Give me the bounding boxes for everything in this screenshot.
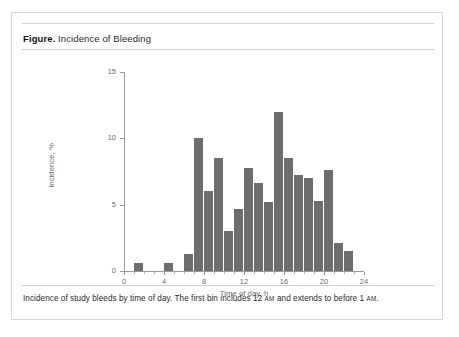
- bar-hour-6: [184, 254, 193, 271]
- bar-hour-22: [344, 251, 353, 271]
- y-tick-label-0: 0: [94, 266, 116, 275]
- bar-hour-16: [284, 158, 293, 271]
- figure-card: Figure. Incidence of Bleeding Incidence,…: [11, 12, 443, 320]
- caption-am-2: AM: [366, 295, 376, 302]
- bar-hour-8: [204, 191, 213, 271]
- x-tick-7: [194, 272, 195, 274]
- x-tick-17: [294, 272, 295, 274]
- figure-caption: Incidence of study bleeds by time of day…: [23, 293, 433, 304]
- x-tick-0: [124, 272, 125, 275]
- x-tick-8: [204, 272, 205, 275]
- bar-hour-13: [254, 183, 263, 271]
- x-tick-6: [184, 272, 185, 274]
- x-tick-13: [254, 272, 255, 274]
- bleeding-incidence-chart: Incidence, % Time of day, h 051015 04812…: [12, 43, 444, 283]
- bar-hour-14: [264, 202, 273, 271]
- bar-hour-21: [334, 243, 343, 271]
- x-tick-20: [324, 272, 325, 275]
- bar-hour-7: [194, 138, 203, 271]
- x-tick-23: [354, 272, 355, 274]
- x-tick-24: [364, 272, 365, 275]
- x-tick-15: [274, 272, 275, 274]
- histogram-bars: [124, 72, 364, 271]
- x-tick-14: [264, 272, 265, 274]
- bar-hour-1: [134, 263, 143, 271]
- page-root: Figure. Incidence of Bleeding Incidence,…: [0, 0, 459, 337]
- caption-am-1: AM: [265, 295, 275, 302]
- x-tick-3: [154, 272, 155, 274]
- bar-hour-12: [244, 168, 253, 271]
- x-tick-9: [214, 272, 215, 274]
- bar-hour-19: [314, 201, 323, 271]
- caption-text-3: .: [377, 294, 379, 303]
- x-tick-12: [244, 272, 245, 275]
- caption-text-1: Incidence of study bleeds by time of day…: [23, 294, 265, 303]
- x-tick-4: [164, 272, 165, 275]
- caption-divider: [22, 285, 434, 286]
- x-tick-18: [304, 272, 305, 274]
- x-tick-5: [174, 272, 175, 274]
- x-tick-16: [284, 272, 285, 275]
- bar-hour-10: [224, 231, 233, 271]
- y-axis-label: Incidence, %: [47, 121, 56, 211]
- bar-hour-17: [294, 175, 303, 271]
- x-tick-22: [344, 272, 345, 274]
- y-tick-label-10: 10: [94, 133, 116, 142]
- top-divider: [22, 23, 434, 24]
- y-tick-label-5: 5: [94, 200, 116, 209]
- x-tick-2: [144, 272, 145, 274]
- bar-hour-4: [164, 263, 173, 271]
- caption-text-2: and extends to before 1: [275, 294, 367, 303]
- x-tick-10: [224, 272, 225, 274]
- y-tick-label-15: 15: [94, 67, 116, 76]
- x-tick-11: [234, 272, 235, 274]
- x-tick-1: [134, 272, 135, 274]
- bar-hour-20: [324, 170, 333, 271]
- bar-hour-9: [214, 158, 223, 271]
- bar-hour-18: [304, 178, 313, 271]
- bar-hour-15: [274, 112, 283, 271]
- bar-hour-11: [234, 209, 243, 271]
- x-tick-21: [334, 272, 335, 274]
- x-tick-19: [314, 272, 315, 274]
